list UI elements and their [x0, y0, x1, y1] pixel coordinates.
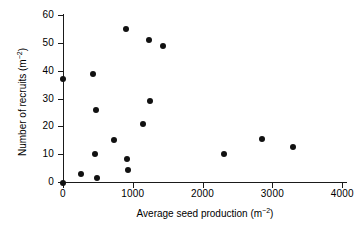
x-axis-line [63, 182, 347, 183]
y-axis-title-tail: ) [17, 48, 28, 51]
data-point [111, 137, 117, 143]
x-axis-title-tail: ) [270, 208, 273, 219]
data-point [94, 175, 100, 181]
y-axis-title-base: Number of recruits (m [17, 59, 28, 156]
y-axis-title: Number of recruits (m−2) [17, 17, 29, 187]
data-point [259, 136, 265, 142]
data-point [125, 167, 131, 173]
x-tick-label: 0 [38, 189, 88, 199]
x-axis-title: Average seed production (m−2) [63, 208, 347, 220]
x-tick-label: 1000 [108, 189, 158, 199]
data-point [93, 107, 99, 113]
data-point [78, 171, 84, 177]
x-tick-label: 2000 [178, 189, 228, 199]
data-point [140, 121, 146, 127]
data-point [123, 26, 129, 32]
data-point [290, 144, 296, 150]
x-tick-label: 4000 [317, 189, 360, 199]
data-point [92, 151, 98, 157]
data-point [160, 43, 166, 49]
data-point [147, 98, 153, 104]
data-point [60, 180, 66, 186]
plot-area [63, 14, 346, 182]
data-point [90, 71, 96, 77]
data-point [146, 37, 152, 43]
x-tick-label: 3000 [247, 189, 297, 199]
data-point [221, 151, 227, 157]
scatter-plot-figure: 0102030405060 01000200030004000 Average … [0, 0, 360, 234]
y-axis-title-exponent: −2 [16, 51, 23, 59]
x-axis-title-exponent: −2 [262, 207, 270, 214]
data-point [60, 76, 66, 82]
x-axis-title-base: Average seed production (m [137, 208, 262, 219]
data-point [124, 156, 130, 162]
